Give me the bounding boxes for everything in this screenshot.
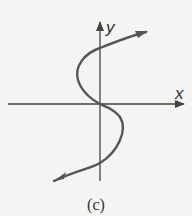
y-axis-label: y <box>106 19 115 36</box>
figure-caption: (c) <box>0 197 192 213</box>
graph-canvas <box>0 0 192 216</box>
diagram-figure: y x (c) <box>0 0 192 216</box>
curve-arrow-top-icon <box>135 31 148 38</box>
x-axis-label: x <box>175 85 184 102</box>
